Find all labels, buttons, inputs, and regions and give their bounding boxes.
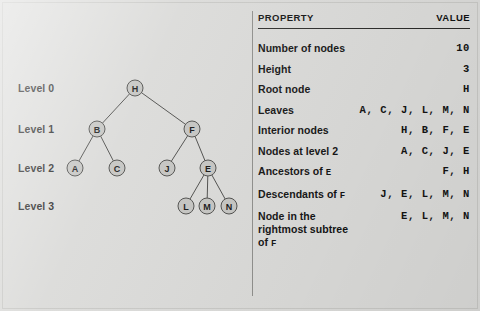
tree-edge-B-A [79, 136, 93, 161]
node-label-J: J [164, 164, 169, 174]
tree-edge-E-M [207, 176, 208, 198]
property-cell: Nodes at level 2 [258, 137, 360, 158]
property-cell: Ancestors of E [258, 158, 360, 181]
value-cell: H, B, F, E [360, 117, 470, 138]
property-cell: Interior nodes [258, 117, 360, 138]
tree-node-L: L [178, 198, 194, 214]
tree-node-A: A [67, 160, 83, 176]
property-node-ref: F [271, 239, 276, 249]
header-property: PROPERTY [258, 12, 360, 29]
tree-node-B: B [89, 121, 105, 137]
node-label-F: F [189, 125, 195, 135]
value-cell: A, C, J, E [360, 137, 470, 158]
tree-node-M: M [199, 198, 215, 214]
panel-divider [252, 11, 253, 296]
value-cell: A, C, J, L, M, N [360, 96, 470, 117]
node-label-E: E [205, 164, 211, 174]
tree-edge-B-C [101, 136, 114, 161]
property-table-panel: PROPERTY VALUE Number of nodes10Height3R… [258, 0, 473, 311]
property-cell: Leaves [258, 96, 360, 117]
tree-edges [79, 93, 225, 199]
value-cell: J, E, L, M, N [360, 180, 470, 203]
table-row: Interior nodesH, B, F, E [258, 117, 470, 138]
tree-diagram-panel: Level 0Level 1Level 2Level 3 HBFACJELMN [0, 0, 252, 311]
value-cell: F, H [360, 158, 470, 181]
table-row: Number of nodes10 [258, 29, 470, 56]
table-row: LeavesA, C, J, L, M, N [258, 96, 470, 117]
property-table: PROPERTY VALUE Number of nodes10Height3R… [258, 12, 470, 251]
property-cell: Height [258, 55, 360, 76]
node-label-B: B [94, 125, 101, 135]
tree-edge-F-E [195, 136, 205, 160]
table-row: Descendants of FJ, E, L, M, N [258, 180, 470, 203]
value-cell: 10 [360, 29, 470, 56]
table-header-row: PROPERTY VALUE [258, 12, 470, 29]
node-label-L: L [183, 202, 189, 212]
table-row: Height3 [258, 55, 470, 76]
table-body: Number of nodes10Height3Root nodeHLeaves… [258, 29, 470, 252]
tree-edge-H-F [141, 93, 185, 125]
table-row: Ancestors of EF, H [258, 158, 470, 181]
tree-node-N: N [221, 198, 237, 214]
property-cell: Node in the rightmost subtree of F [258, 203, 360, 252]
figure-canvas: Level 0Level 1Level 2Level 3 HBFACJELMN … [0, 0, 480, 311]
node-label-H: H [132, 84, 139, 94]
table-row: Nodes at level 2A, C, J, E [258, 137, 470, 158]
tree-edge-E-L [190, 175, 204, 199]
tree-node-E: E [200, 160, 216, 176]
tree-node-F: F [184, 121, 200, 137]
tree-node-J: J [159, 160, 175, 176]
table-row: Node in the rightmost subtree of FE, L, … [258, 203, 470, 252]
node-label-M: M [203, 202, 211, 212]
header-value: VALUE [360, 12, 470, 29]
value-cell: 3 [360, 55, 470, 76]
tree-graph: HBFACJELMN [0, 0, 252, 311]
property-cell: Root node [258, 76, 360, 97]
node-label-N: N [226, 202, 233, 212]
property-node-ref: F [340, 191, 345, 201]
property-cell: Number of nodes [258, 29, 360, 56]
table-header: PROPERTY VALUE [258, 12, 470, 29]
table-row: Root nodeH [258, 76, 470, 97]
property-cell: Descendants of F [258, 180, 360, 203]
tree-edge-F-J [171, 136, 187, 162]
value-cell: E, L, M, N [360, 203, 470, 252]
node-label-C: C [114, 164, 121, 174]
tree-node-H: H [127, 80, 143, 96]
tree-edge-H-B [102, 94, 129, 123]
value-cell: H [360, 76, 470, 97]
property-node-ref: E [326, 168, 331, 178]
tree-edge-E-N [212, 175, 225, 199]
tree-node-C: C [109, 160, 125, 176]
node-label-A: A [72, 164, 79, 174]
